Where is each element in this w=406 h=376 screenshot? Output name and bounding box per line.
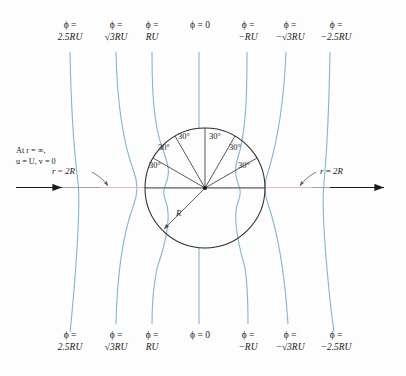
label-phi-negsqrt3RU-bottom: ϕ = −√3RU <box>264 330 316 353</box>
left-r2R-equals: = <box>58 166 63 176</box>
curve-phi-2p5RU <box>70 52 79 332</box>
freestream-line-2: u = U, v = 0 <box>16 156 56 167</box>
potential-flow-diagram <box>0 0 406 376</box>
right-r2R-label: r = 2R <box>320 166 343 176</box>
radius-label-R: R <box>176 208 181 218</box>
angle-label-180-150: 30° <box>149 160 161 170</box>
curve-phi-sqrt3RU <box>116 52 137 324</box>
angle-label-30-0: 30° <box>238 160 250 170</box>
angle-label-90-60: 30° <box>209 131 221 141</box>
curve-phi-neg2p5RU <box>323 52 334 332</box>
angle-label-120-90: 30° <box>178 131 190 141</box>
right-r2R-equals: = <box>326 166 331 176</box>
freestream-condition-note: At r = ∞, u = U, v = 0 <box>16 145 56 167</box>
left-r2R-value: 2R <box>65 166 75 176</box>
angle-label-60-30: 30° <box>229 142 241 152</box>
label-phi-neg2p5RU-bottom: ϕ = −2.5RU <box>310 330 362 353</box>
leader-right-r2R <box>300 172 316 186</box>
label-phi-0-top: ϕ = 0 <box>174 20 226 32</box>
right-r2R-prefix: r <box>320 166 324 176</box>
label-phi-negsqrt3RU-top: ϕ = −√3RU <box>264 20 316 43</box>
label-phi-2p5RU-top: ϕ = 2.5RU <box>44 20 96 43</box>
label-phi-RU-top: ϕ = RU <box>126 20 178 43</box>
streamline-curves <box>70 52 334 332</box>
angle-label-150-120: 30° <box>158 142 170 152</box>
label-phi-2p5RU-bottom: ϕ = 2.5RU <box>44 330 96 353</box>
label-phi-RU-bottom: ϕ = RU <box>126 330 178 353</box>
center-point <box>203 186 207 190</box>
left-r2R-label: r = 2R <box>52 166 75 176</box>
ray-120deg <box>175 136 205 188</box>
sector-radii <box>145 128 265 188</box>
curve-phi-negsqrt3RU <box>265 52 288 324</box>
label-phi-0-bottom: ϕ = 0 <box>174 330 226 342</box>
leader-left-r2R <box>92 172 108 186</box>
left-r2R-prefix: r <box>52 166 56 176</box>
freestream-line-1: At r = ∞, <box>16 145 56 156</box>
label-phi-neg2p5RU-top: ϕ = −2.5RU <box>310 20 362 43</box>
right-r2R-value: 2R <box>333 166 343 176</box>
radius-arrow <box>164 188 205 229</box>
